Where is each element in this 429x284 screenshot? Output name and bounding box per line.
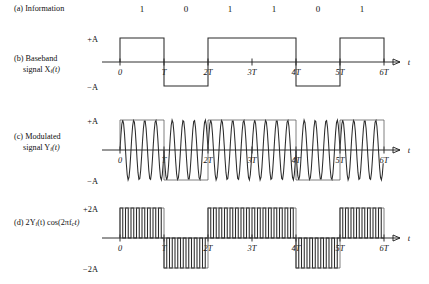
svg-text:3T: 3T [247,244,258,253]
product-plot: t0T2T3T4T5T6T+2A−2A [0,196,429,280]
svg-text:0: 0 [118,244,123,253]
svg-text:+A: +A [87,117,98,126]
row-label-modulated: (c) Modulated signal Yi(t) [14,132,61,154]
information-bit: 0 [310,4,326,14]
bpsk-waveform-figure: (a) Information 101101 (b) Baseband sign… [0,0,429,284]
svg-text:+2A: +2A [83,205,98,214]
row-label-baseband: (b) Baseband signal Xi(t) [14,54,60,76]
baseband-plot: t0T2T3T4T5T6T+A−A [0,28,429,98]
row-label-baseband-line2: signal Xi(t) [14,65,60,77]
information-bit: 1 [354,4,370,14]
svg-text:−A: −A [87,83,98,92]
svg-text:6T: 6T [380,68,390,77]
svg-text:T: T [162,68,168,77]
information-bit: 1 [222,4,238,14]
information-bit-sequence: 101101 [0,4,429,20]
row-product: (d) 2Yi(t) cos(2πfct) t0T2T3T4T5T6T+2A−2… [0,196,429,280]
svg-text:5T: 5T [336,156,346,165]
svg-text:4T: 4T [292,244,302,253]
modulated-plot: t0T2T3T4T5T6T+A−A [0,106,429,188]
row-modulated: (c) Modulated signal Yi(t) t0T2T3T4T5T6T… [0,106,429,188]
svg-text:+A: +A [87,35,98,44]
row-label-baseband-line1: (b) Baseband [14,54,57,63]
svg-text:−2A: −2A [83,265,98,274]
svg-text:6T: 6T [380,244,390,253]
row-label-product: (d) 2Yi(t) cos(2πfct) [14,218,79,230]
svg-text:3T: 3T [247,68,258,77]
svg-text:0: 0 [118,68,123,77]
svg-text:4T: 4T [292,68,302,77]
svg-text:2T: 2T [204,68,214,77]
row-label-modulated-line2: signal Yi(t) [14,143,61,155]
svg-text:t: t [408,58,411,67]
svg-text:0: 0 [118,156,123,165]
svg-text:2T: 2T [204,156,214,165]
row-information: (a) Information 101101 [0,4,429,22]
svg-text:t: t [408,234,411,243]
information-bit: 1 [134,4,150,14]
row-baseband: (b) Baseband signal Xi(t) t0T2T3T4T5T6T+… [0,28,429,98]
svg-text:t: t [408,146,411,155]
svg-text:3T: 3T [247,156,258,165]
information-bit: 0 [178,4,194,14]
svg-text:−A: −A [87,177,98,186]
svg-text:5T: 5T [336,68,346,77]
row-label-modulated-line1: (c) Modulated [14,132,61,141]
svg-text:6T: 6T [380,156,390,165]
information-bit: 1 [266,4,282,14]
